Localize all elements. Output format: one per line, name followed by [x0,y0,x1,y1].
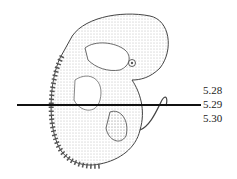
section-label-5-29: 5.29 [203,98,222,110]
section-label-5-30: 5.30 [203,112,222,124]
embryo-drawing [0,0,237,179]
embryo-figure [0,0,237,179]
section-line-5-29 [17,104,201,106]
section-label-5-28: 5.28 [203,84,222,96]
